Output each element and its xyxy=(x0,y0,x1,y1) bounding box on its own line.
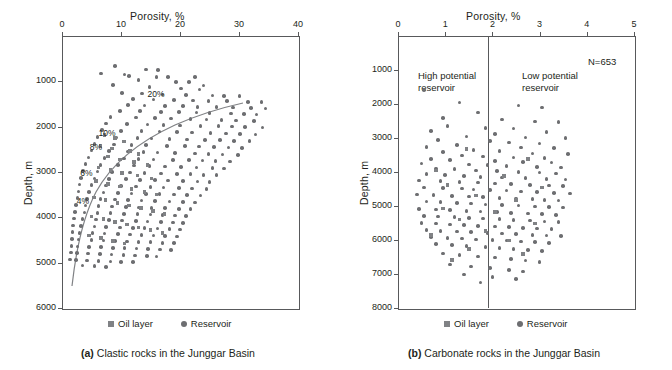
data-point-reservoir xyxy=(446,124,450,128)
data-point-reservoir xyxy=(181,200,185,204)
data-point-reservoir xyxy=(113,64,117,68)
x-tick-label: 40 xyxy=(284,19,312,29)
data-point-reservoir xyxy=(197,145,201,149)
data-point-reservoir xyxy=(488,266,492,270)
data-point-reservoir xyxy=(540,249,544,253)
data-point-reservoir xyxy=(507,141,511,145)
region-label-low: Low potential reservoir xyxy=(522,70,578,94)
legend-item-oil-a: Oil layer xyxy=(108,318,153,329)
legend-item-reservoir-a: Reservoir xyxy=(181,318,232,329)
caption-label-b: (b) xyxy=(408,347,421,359)
data-point-reservoir xyxy=(220,118,224,122)
data-point-reservoir xyxy=(240,146,244,150)
data-point-oil-layer xyxy=(99,236,103,240)
data-point-oil-layer xyxy=(130,187,134,191)
data-point-reservoir xyxy=(538,260,542,264)
data-point-reservoir xyxy=(474,238,478,242)
annotation-label: 8% xyxy=(90,142,102,152)
data-point-reservoir xyxy=(107,177,111,181)
y-tick xyxy=(394,206,398,207)
data-point-reservoir xyxy=(87,245,91,249)
data-point-reservoir xyxy=(446,236,450,240)
x-tick xyxy=(492,32,493,36)
data-point-reservoir xyxy=(136,136,140,140)
y-tick-label: 6000 xyxy=(360,234,392,244)
data-point-reservoir xyxy=(73,210,77,214)
data-point-reservoir xyxy=(224,132,228,136)
y-tick xyxy=(58,127,62,128)
data-point-reservoir xyxy=(443,173,447,177)
data-point-oil-layer xyxy=(434,169,438,173)
data-point-reservoir xyxy=(109,115,113,119)
data-point-reservoir xyxy=(455,230,459,234)
data-point-reservoir xyxy=(222,167,226,171)
data-point-reservoir xyxy=(169,248,173,252)
data-point-reservoir xyxy=(448,223,452,227)
data-point-reservoir xyxy=(193,152,197,156)
data-point-reservoir xyxy=(460,237,464,241)
data-point-reservoir xyxy=(500,118,504,122)
data-point-reservoir xyxy=(187,158,191,162)
data-point-oil-layer xyxy=(149,228,153,232)
square-marker-icon xyxy=(444,321,450,327)
data-point-reservoir xyxy=(441,252,445,256)
data-point-oil-layer xyxy=(540,186,544,190)
data-point-reservoir xyxy=(207,99,211,103)
data-point-reservoir xyxy=(146,247,150,251)
data-point-oil-layer xyxy=(90,215,94,219)
data-point-reservoir xyxy=(126,103,130,107)
data-point-reservoir xyxy=(99,197,103,201)
data-point-reservoir xyxy=(514,277,518,281)
data-point-reservoir xyxy=(218,138,222,142)
x-tick xyxy=(445,32,446,36)
data-point-reservoir xyxy=(175,130,179,134)
data-point-reservoir xyxy=(450,243,454,247)
data-point-reservoir xyxy=(193,201,197,205)
legend-label-oil-b: Oil layer xyxy=(454,318,489,329)
data-point-reservoir xyxy=(116,191,120,195)
data-point-oil-layer xyxy=(441,207,445,211)
data-point-reservoir xyxy=(199,124,203,128)
data-point-reservoir xyxy=(124,177,128,181)
y-tick-label: 4000 xyxy=(360,166,392,176)
y-tick-label: 1000 xyxy=(24,75,56,85)
data-point-oil-layer xyxy=(94,179,98,183)
x-tick xyxy=(239,32,240,36)
x-tick-label: 20 xyxy=(166,19,194,29)
data-point-reservoir xyxy=(554,172,558,176)
data-point-reservoir xyxy=(177,110,181,114)
data-point-reservoir xyxy=(171,221,175,225)
data-point-reservoir xyxy=(448,158,452,162)
y-tick xyxy=(58,81,62,82)
data-point-reservoir xyxy=(126,198,130,202)
data-point-oil-layer xyxy=(118,185,122,189)
data-point-oil-layer xyxy=(128,149,132,153)
data-point-reservoir xyxy=(476,224,480,228)
data-point-reservoir xyxy=(550,227,554,231)
y-tick xyxy=(58,263,62,264)
legend-label-oil-a: Oil layer xyxy=(118,318,153,329)
data-point-reservoir xyxy=(500,203,504,207)
data-point-reservoir xyxy=(119,260,123,264)
data-point-reservoir xyxy=(208,180,212,184)
data-point-reservoir xyxy=(177,207,181,211)
data-point-oil-layer xyxy=(120,171,124,175)
data-point-reservoir xyxy=(528,183,532,187)
data-point-reservoir xyxy=(96,211,100,215)
data-point-reservoir xyxy=(509,257,513,261)
data-point-oil-layer xyxy=(161,231,165,235)
data-point-reservoir xyxy=(144,143,148,147)
data-point-reservoir xyxy=(131,260,135,264)
data-point-reservoir xyxy=(74,258,78,262)
legend-label-reservoir-a: Reservoir xyxy=(191,318,232,329)
data-point-reservoir xyxy=(533,240,537,244)
data-point-reservoir xyxy=(122,212,126,216)
caption-b: (b) Carbonate rocks in the Junggar Basin xyxy=(336,347,672,359)
data-point-reservoir xyxy=(488,139,492,143)
y-tick xyxy=(394,138,398,139)
y-tick-label: 2000 xyxy=(360,98,392,108)
data-point-reservoir xyxy=(184,214,188,218)
data-point-reservoir xyxy=(97,259,101,263)
data-point-reservoir xyxy=(149,185,153,189)
data-point-reservoir xyxy=(547,241,551,245)
